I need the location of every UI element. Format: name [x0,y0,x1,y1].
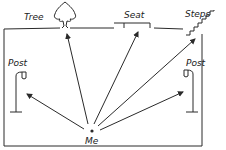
observer-label: Me [85,136,99,146]
direction-arrows [27,32,195,130]
arrow-to-tree [67,34,88,124]
arrow-to-post-right [100,92,183,130]
observer-point [90,129,93,132]
post-left-label: Post [8,58,28,68]
arrow-to-post-left [27,94,84,129]
lamp-post-right-icon [184,70,198,112]
arrow-to-steps [98,39,195,126]
lamp-post-left-icon [10,72,26,112]
tree-icon [54,2,75,28]
tree-label: Tree [24,12,44,22]
post-right-label: Post [186,58,206,68]
scene-diagram: Tree Seat Steps Post Post Me [0,0,226,150]
steps-label: Steps [185,9,210,19]
seat-label: Seat [124,10,145,20]
seat-icon [114,23,150,28]
